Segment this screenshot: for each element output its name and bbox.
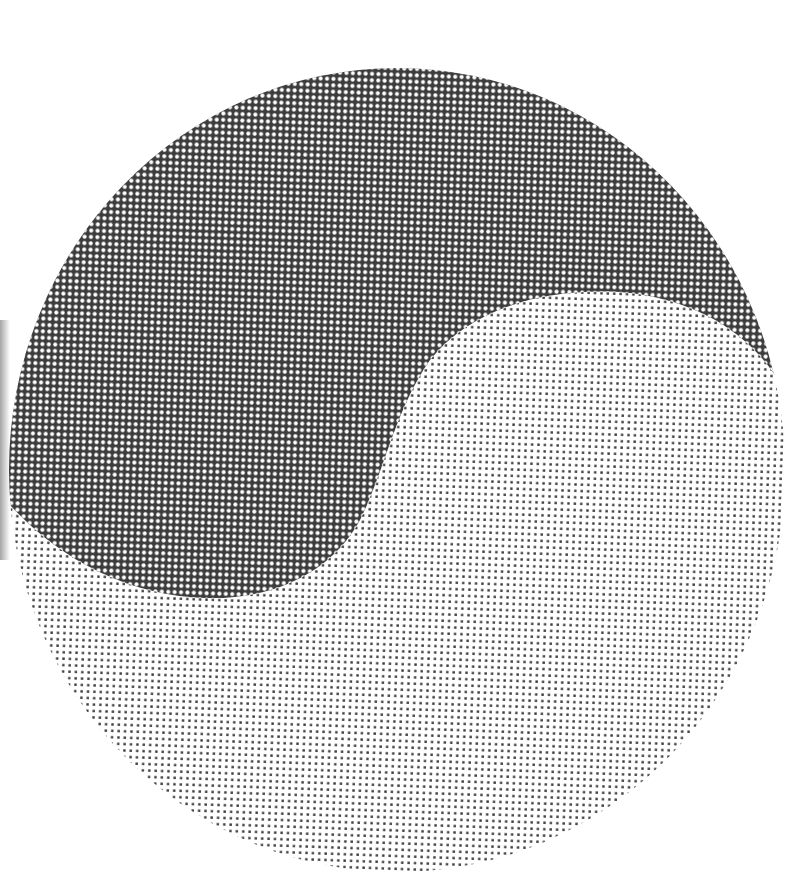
yin-yang-svg (0, 0, 795, 871)
scan-edge-smudge (0, 320, 10, 560)
halftone-yin-yang-graphic: Halftone yin-yang circle (0, 0, 795, 871)
